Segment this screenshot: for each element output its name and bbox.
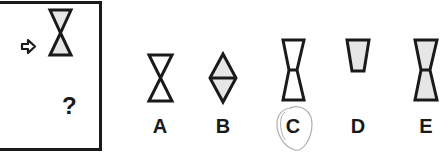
option-a-label[interactable]: A [153, 115, 167, 138]
option-e-label[interactable]: E [419, 115, 432, 138]
option-a-shape[interactable] [149, 55, 172, 101]
option-c-label[interactable]: C [286, 115, 300, 138]
question-mark: ? [62, 92, 77, 120]
option-d-shape[interactable] [347, 40, 369, 71]
right-arrow-icon [22, 40, 35, 53]
given-hourglass-shape [50, 10, 71, 55]
figure-canvas [0, 0, 440, 166]
option-c-shape[interactable] [283, 40, 304, 100]
option-b-shape[interactable] [210, 54, 236, 102]
option-d-label[interactable]: D [351, 115, 365, 138]
option-b-label[interactable]: B [216, 115, 230, 138]
option-e-shape[interactable] [415, 40, 437, 100]
